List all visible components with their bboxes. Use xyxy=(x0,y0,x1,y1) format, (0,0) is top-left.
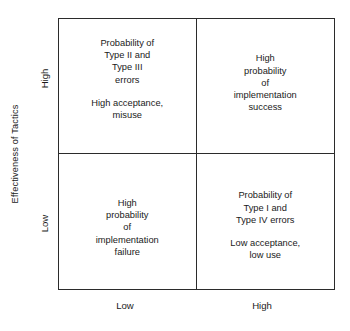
matrix-figure: Effectiveness of Tactics High Low Probab… xyxy=(0,0,350,331)
quadrant-top-left-content: Probability of Type II and Type III erro… xyxy=(91,37,163,121)
quadrant-bottom-right: Probability of Type I and Type IV errors… xyxy=(197,154,335,289)
y-axis-tick-high-label: High xyxy=(39,68,50,88)
quadrant-bottom-right-block-1: Probability of Type I and Type IV errors xyxy=(230,189,300,226)
quadrant-top-left-block-2: High acceptance, misuse xyxy=(91,97,163,121)
quadrant-bottom-left-content: High probability of implementation failu… xyxy=(96,197,159,258)
quadrant-bottom-right-block-2: Low acceptance, low use xyxy=(230,237,300,261)
y-axis-title-label: Effectiveness of Tactics xyxy=(10,105,20,204)
y-axis-tick-low-label: Low xyxy=(39,214,50,232)
quadrant-top-left: Probability of Type II and Type III erro… xyxy=(59,19,197,154)
y-axis-title: Effectiveness of Tactics xyxy=(2,18,28,290)
quadrant-top-right-content: High probability of implementation succe… xyxy=(234,52,297,113)
matrix-grid: Probability of Type II and Type III erro… xyxy=(58,18,335,290)
quadrant-bottom-right-content: Probability of Type I and Type IV errors… xyxy=(230,189,300,261)
y-axis-tick-high: High xyxy=(34,46,56,110)
quadrant-top-right: High probability of implementation succe… xyxy=(197,19,335,154)
x-axis-tick-high: High xyxy=(222,300,302,311)
quadrant-bottom-left: High probability of implementation failu… xyxy=(59,154,197,289)
quadrant-bottom-left-block-1: High probability of implementation failu… xyxy=(96,197,159,258)
y-axis-tick-low: Low xyxy=(34,192,56,254)
quadrant-top-left-block-1: Probability of Type II and Type III erro… xyxy=(91,37,163,86)
quadrant-top-right-block-1: High probability of implementation succe… xyxy=(234,52,297,113)
x-axis-tick-low: Low xyxy=(85,300,165,311)
